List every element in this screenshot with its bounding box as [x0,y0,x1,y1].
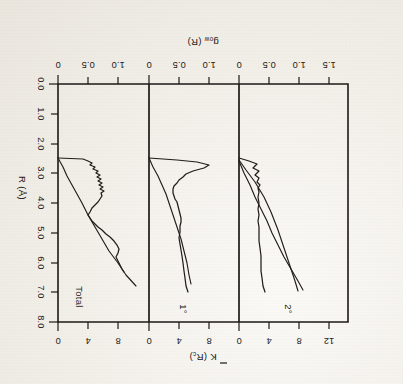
k-tick-label: 4 [85,336,90,346]
r-axis-tick-labels: 0.0 1.0 2.0 3.0 4.0 5.0 6.0 7.0 8.0 [36,77,46,328]
g-axis-title-arg: (R) [187,37,204,48]
curve-gow-primary [149,158,209,292]
g-tick-label: 1.0 [292,60,305,70]
r-tick-label: 8.0 [36,315,46,328]
figure-plate: 0 4 8 0 4 8 0 4 8 12 K (Rc) [0,0,403,384]
k-axis-title-sub: c [192,351,196,358]
g-tick-label: 0 [236,60,241,70]
r-tick-label: 3.0 [36,166,46,179]
r-tick-label: 5.0 [36,226,46,239]
k-tick-label: 4 [176,336,181,346]
g-tick-label: 0 [55,60,60,70]
k-axis-title-paren-close: ) [189,352,193,363]
k-tick-label: 8 [115,336,120,346]
g-tick-label: 0.5 [172,60,185,70]
panel-dividers [149,84,239,322]
k-tick-label: 8 [296,336,301,346]
curve-kbar-secondary-a [239,161,303,290]
k-axis-title-paren-open: (R [196,352,210,363]
r-tick-label: 6.0 [36,256,46,269]
k-tick-label: 0 [146,336,151,346]
r-axis-title: R (Å) [17,176,28,200]
panel-label-total: Total [74,286,85,307]
g-axis-title: gow (R) [187,36,219,48]
k-axis-title-k: K [210,352,217,363]
k-axis-tick-labels: 0 4 8 0 4 8 0 4 8 12 [55,336,334,346]
curve-gow-total [58,158,124,272]
g-axis-title-g: g [213,37,219,48]
k-tick-label: 0 [55,336,60,346]
svg-text:gow (R): gow (R) [187,36,219,48]
panel-label-primary: 1° [178,304,189,314]
k-axis-ticks [58,322,329,331]
g-tick-label: 0.5 [81,60,94,70]
g-axis-tick-labels: 0 0.5 1.0 0 0.5 1.0 0 0.5 1.0 1.5 [55,60,335,70]
svg-text:K (Rc): K (Rc) [189,351,216,363]
panel-labels: Total 1° 2° [74,286,294,313]
curve-group-total [58,158,136,286]
plot-frame [58,84,348,322]
k-tick-label: 12 [324,336,335,346]
r-tick-label: 1.0 [36,107,46,120]
r-tick-label: 2.0 [36,137,46,150]
g-tick-label: 1.5 [322,60,335,70]
g-tick-label: 1.0 [111,60,124,70]
curve-group-primary [149,158,209,292]
r-axis-ticks [49,84,58,322]
curve-group-secondary [239,158,303,292]
r-axis-title-text: R (Å) [17,176,28,200]
curve-kbar-primary [149,158,191,284]
g-tick-label: 0 [146,60,151,70]
k-tick-label: 8 [206,336,211,346]
k-tick-label: 4 [266,336,271,346]
r-tick-label: 4.0 [36,196,46,209]
plot-svg: 0 4 8 0 4 8 0 4 8 12 K (Rc) [0,0,403,384]
panel-label-secondary: 2° [283,304,294,314]
k-tick-label: 0 [236,336,241,346]
g-tick-label: 0.5 [262,60,275,70]
g-axis-ticks [58,75,329,84]
k-axis-title: K (Rc) [189,351,227,363]
r-tick-label: 0.0 [36,77,46,90]
g-tick-label: 1.0 [202,60,215,70]
g-axis-title-sub: ow [204,36,213,43]
r-tick-label: 7.0 [36,285,46,298]
